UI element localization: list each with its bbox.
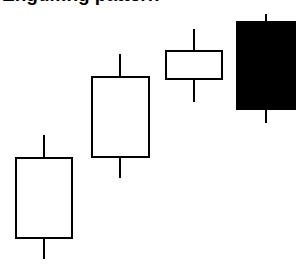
- candle-up: [166, 29, 222, 102]
- candle-body: [237, 22, 295, 109]
- candle-up: [16, 135, 72, 259]
- candle-body: [16, 158, 72, 238]
- candle-up: [92, 54, 149, 178]
- candlestick-chart: [0, 0, 306, 273]
- candle-down: [237, 14, 295, 123]
- candle-body: [166, 51, 222, 79]
- candle-body: [92, 77, 149, 157]
